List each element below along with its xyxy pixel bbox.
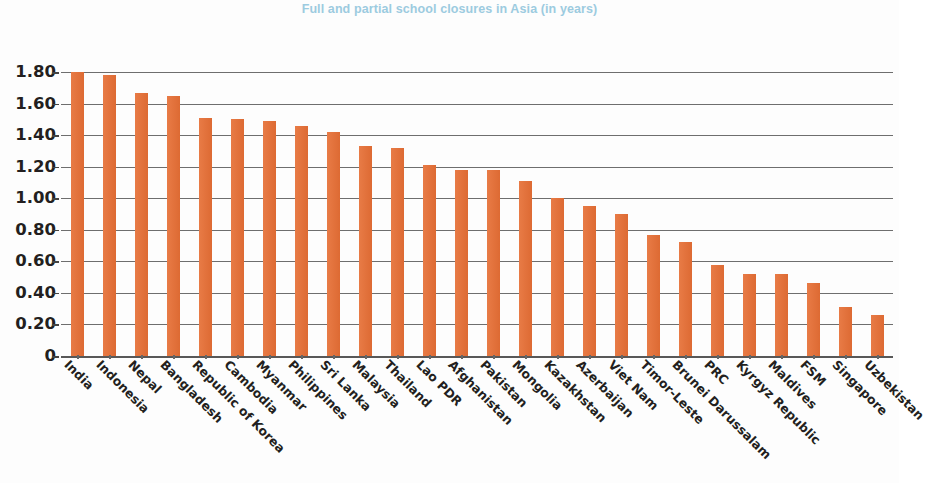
x-axis-tick-label: India <box>61 357 97 393</box>
gridline <box>61 198 893 199</box>
bar <box>391 148 404 356</box>
x-axis-tick-mark <box>589 355 591 359</box>
bar <box>295 126 308 356</box>
y-axis-tick-mark <box>52 230 59 232</box>
bar <box>359 146 372 356</box>
y-axis-tick-label: 0.60 <box>4 251 56 270</box>
x-axis-tick-mark <box>845 355 847 359</box>
plot-area <box>61 72 893 356</box>
bar <box>487 170 500 356</box>
bar <box>775 274 788 356</box>
x-axis-tick-mark <box>493 355 495 359</box>
x-axis-tick-mark <box>813 355 815 359</box>
x-axis-tick-mark <box>333 355 335 359</box>
y-axis-tick-mark <box>52 104 59 106</box>
y-axis-tick-mark <box>52 198 59 200</box>
bar <box>583 206 596 356</box>
y-axis-tick-label: 0.40 <box>4 283 56 302</box>
y-axis-tick-label: 0.80 <box>4 220 56 239</box>
y-axis-tick-mark <box>52 135 59 137</box>
x-axis-tick-mark <box>781 355 783 359</box>
x-axis-tick-mark <box>397 355 399 359</box>
gridline <box>61 293 893 294</box>
bar <box>807 283 820 356</box>
bar <box>743 274 756 356</box>
x-axis-tick-mark <box>877 355 879 359</box>
x-axis-tick-mark <box>557 355 559 359</box>
y-axis-tick-mark <box>52 261 59 263</box>
bar <box>871 315 884 356</box>
x-axis-tick-mark <box>109 355 111 359</box>
x-axis-tick-mark <box>269 355 271 359</box>
y-axis-tick-label: 1.80 <box>4 62 56 81</box>
gridline <box>61 167 893 168</box>
bar <box>711 265 724 357</box>
bar <box>199 118 212 356</box>
x-axis-tick-mark <box>685 355 687 359</box>
bar <box>263 121 276 356</box>
bar <box>615 214 628 356</box>
x-axis-tick-mark <box>237 355 239 359</box>
y-axis: 1.801.601.401.201.000.800.600.400.200 <box>0 72 56 356</box>
bar <box>679 242 692 356</box>
bar <box>519 181 532 356</box>
bar <box>423 165 436 356</box>
x-axis-tick-mark <box>621 355 623 359</box>
x-axis-tick-mark <box>173 355 175 359</box>
y-axis-tick-mark <box>52 167 59 169</box>
x-axis-tick-mark <box>749 355 751 359</box>
bar <box>135 93 148 356</box>
x-axis-tick-mark <box>365 355 367 359</box>
y-axis-tick-mark <box>52 72 59 74</box>
y-axis-tick-mark <box>52 324 59 326</box>
x-axis-labels: IndiaIndonesiaNepalBangladeshRepublic of… <box>61 357 899 483</box>
bar <box>839 307 852 356</box>
x-axis-tick-mark <box>653 355 655 359</box>
y-axis-tick-label: 0.20 <box>4 314 56 333</box>
y-axis-tick-mark <box>52 356 59 358</box>
y-axis-tick-label: 1.40 <box>4 125 56 144</box>
x-axis-tick-mark <box>461 355 463 359</box>
x-axis-tick-mark <box>77 355 79 359</box>
bar <box>551 198 564 356</box>
gridline <box>61 104 893 105</box>
x-axis-tick-mark <box>717 355 719 359</box>
y-axis-tick-label: 1.60 <box>4 94 56 113</box>
bar <box>647 235 660 356</box>
bar <box>327 132 340 356</box>
gridline <box>61 230 893 231</box>
bar <box>103 75 116 356</box>
bar <box>167 96 180 356</box>
bar <box>231 119 244 356</box>
gridline <box>61 324 893 325</box>
gridline <box>61 72 893 73</box>
bar <box>71 72 84 356</box>
bar <box>455 170 468 356</box>
x-axis-tick-mark <box>205 355 207 359</box>
x-axis-tick-mark <box>429 355 431 359</box>
y-axis-tick-mark <box>52 293 59 295</box>
y-axis-tick-label: 1.00 <box>4 188 56 207</box>
chart-title: Full and partial school closures in Asia… <box>0 2 899 16</box>
x-axis-tick-mark <box>301 355 303 359</box>
x-axis-tick-mark <box>141 355 143 359</box>
y-axis-tick-label: 0 <box>4 346 56 365</box>
x-axis-tick-mark <box>525 355 527 359</box>
y-axis-tick-label: 1.20 <box>4 157 56 176</box>
gridline <box>61 261 893 262</box>
gridline <box>61 135 893 136</box>
